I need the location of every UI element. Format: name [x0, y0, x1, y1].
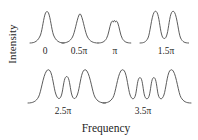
- panel-label-phase-1.5pi: 1.5π: [158, 46, 175, 56]
- curve-phase-2.5pi: [28, 70, 105, 103]
- curve-phase-1.5pi: [140, 11, 189, 43]
- panel-label-phase-2.5pi: 2.5π: [55, 106, 72, 116]
- curve-phase-0.5pi: [62, 14, 98, 43]
- curve-phase-0: [30, 12, 64, 44]
- curve-phase-pi: [98, 21, 131, 43]
- spectra-figure: Intensity 0 0.5π π 1.5π 2.5π 3.5π Freque…: [0, 0, 198, 140]
- panel-label-phase-0.5pi: 0.5π: [71, 46, 88, 56]
- spectra-plot: [0, 0, 198, 140]
- panel-label-phase-pi: π: [113, 46, 118, 56]
- panel-label-phase-0: 0: [43, 46, 48, 56]
- panel-label-phase-3.5pi: 3.5π: [135, 106, 152, 116]
- curve-phase-3.5pi: [103, 70, 191, 103]
- x-axis-label: Frequency: [22, 122, 190, 134]
